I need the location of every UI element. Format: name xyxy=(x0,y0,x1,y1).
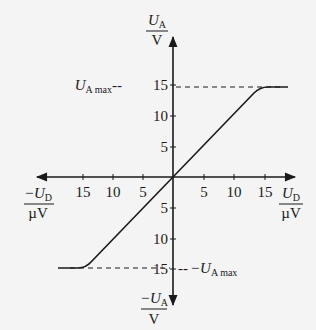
u-max-neg-label: --−UA max xyxy=(178,260,237,278)
svg-text:10: 10 xyxy=(153,231,168,247)
svg-text:µV: µV xyxy=(281,205,301,221)
svg-text:V: V xyxy=(152,32,163,48)
svg-text:UD: UD xyxy=(282,185,300,203)
y-axis-label-negative: −UA V xyxy=(140,290,169,327)
svg-text:5: 5 xyxy=(200,184,208,200)
svg-text:5: 5 xyxy=(161,200,169,216)
y-axis xyxy=(170,37,176,305)
svg-text:10: 10 xyxy=(106,184,121,200)
svg-text:µV: µV xyxy=(28,205,48,221)
svg-text:10: 10 xyxy=(227,184,242,200)
y-axis-label-positive: UA V xyxy=(146,12,168,48)
svg-text:15: 15 xyxy=(76,184,91,200)
svg-text:5: 5 xyxy=(139,184,147,200)
svg-text:15: 15 xyxy=(153,77,168,93)
x-axis-label-negative: −UD µV xyxy=(24,185,54,221)
svg-text:10: 10 xyxy=(153,108,168,124)
x-axis xyxy=(37,174,295,180)
svg-text:−UA: −UA xyxy=(140,290,169,308)
svg-text:15: 15 xyxy=(153,261,168,277)
svg-text:V: V xyxy=(149,311,160,327)
svg-text:5: 5 xyxy=(161,139,169,155)
u-max-pos-label: UA max-- xyxy=(75,77,122,95)
x-tick-labels: 5 10 15 15 10 5 xyxy=(76,184,273,200)
transfer-characteristic-diagram: 5 10 15 15 10 5 5 10 15 5 10 15 UA max--… xyxy=(0,0,316,330)
svg-text:UA: UA xyxy=(148,12,167,30)
svg-text:15: 15 xyxy=(258,184,273,200)
svg-text:−UD: −UD xyxy=(24,185,52,203)
x-axis-label-positive: UD µV xyxy=(279,185,303,221)
